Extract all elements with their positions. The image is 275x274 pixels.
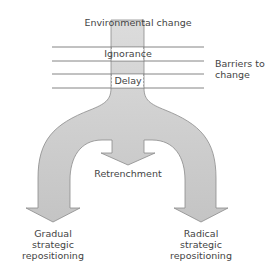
- barriers-to-change-label: Barriers to change: [215, 58, 265, 80]
- gradual-line-1: Gradual: [18, 228, 88, 239]
- gradual-line-2: strategic: [18, 239, 88, 250]
- gradual-line-3: repositioning: [18, 250, 88, 261]
- radical-line-1: Radical: [166, 228, 236, 239]
- radical-line-3: repositioning: [166, 250, 236, 261]
- strategic-change-diagram: Environmental change Ignorance Delay Bar…: [0, 0, 275, 274]
- barriers-label-line-1: Barriers to: [215, 58, 265, 69]
- barrier-ignorance-label: Ignorance: [98, 48, 158, 59]
- retrenchment-label: Retrenchment: [88, 168, 168, 179]
- barriers-label-line-2: change: [215, 69, 265, 80]
- radical-repositioning-label: Radical strategic repositioning: [166, 228, 236, 261]
- barrier-delay-label: Delay: [98, 75, 158, 86]
- gradual-repositioning-label: Gradual strategic repositioning: [18, 228, 88, 261]
- radical-line-2: strategic: [166, 239, 236, 250]
- environmental-change-label: Environmental change: [78, 17, 198, 28]
